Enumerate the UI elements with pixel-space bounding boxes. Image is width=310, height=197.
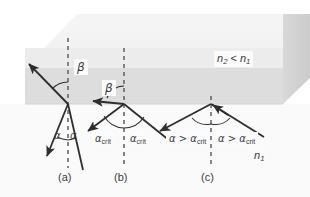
label-n2-lt-n1: n2 < n1 bbox=[214, 51, 253, 67]
label-alpha-gt-crit-incident-c: α > αcrit bbox=[166, 132, 209, 147]
label-alpha-crit-reflected-b: αcrit bbox=[127, 132, 149, 147]
label-alpha-reflected-a: α bbox=[70, 131, 77, 141]
label-beta-a: β bbox=[74, 59, 88, 75]
panel-caption-a: (a) bbox=[58, 172, 71, 183]
label-n2-subscript: 2 bbox=[223, 57, 227, 66]
label-alpha-crit-reflected-glyph: α bbox=[130, 133, 137, 144]
label-n1: n1 bbox=[251, 148, 267, 164]
label-alpha-gt-crit-incident-pre: α > α bbox=[169, 133, 197, 144]
label-n1-subscript: 1 bbox=[246, 57, 250, 66]
label-alpha-crit-incident-sub: crit bbox=[102, 138, 111, 145]
label-alpha-crit-reflected-sub: crit bbox=[137, 138, 146, 145]
slab-right-face bbox=[283, 14, 310, 104]
label-relation: < bbox=[230, 52, 236, 64]
label-alpha-crit-incident-glyph: α bbox=[95, 133, 102, 144]
label-alpha-gt-crit-reflected-sub: crit bbox=[246, 138, 255, 145]
label-alpha-crit-incident-b: αcrit bbox=[92, 132, 114, 147]
label-alpha-gt-crit-reflected-c: α > αcrit bbox=[215, 132, 258, 147]
label-n1-lower-subscript: 1 bbox=[260, 154, 264, 163]
label-alpha-gt-crit-reflected-pre: α > α bbox=[218, 133, 246, 144]
label-alpha-gt-crit-incident-sub: crit bbox=[197, 138, 206, 145]
label-beta-b: β bbox=[102, 80, 116, 96]
panel-caption-b: (b) bbox=[114, 172, 127, 183]
panel-caption-c: (c) bbox=[201, 172, 214, 183]
ray-diagram-canvas bbox=[0, 0, 310, 197]
label-alpha-incident-a: α bbox=[54, 131, 61, 141]
figure-total-internal-reflection: n2 < n1 n1 β α α β αcrit αcrit α > αcrit… bbox=[0, 0, 310, 197]
